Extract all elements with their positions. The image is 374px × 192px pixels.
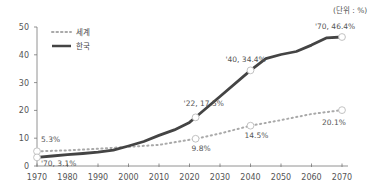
data-point-marker (247, 122, 254, 129)
x-tick-label: 1970 (27, 173, 47, 182)
y-tick-label: 40 (19, 51, 29, 60)
data-point-marker (339, 34, 346, 41)
data-annotation: '70, 3.1% (41, 159, 76, 168)
data-annotation: '70, 46.4% (315, 22, 355, 31)
y-tick-label: 0 (24, 162, 29, 171)
data-annotation: '22, 17.5% (184, 99, 224, 108)
x-tick-label: 1990 (88, 173, 108, 182)
data-point-marker (339, 107, 346, 114)
legend-world-label: 세계 (76, 27, 90, 37)
data-point-marker (34, 154, 41, 161)
x-tick-label: 2040 (240, 173, 260, 182)
data-annotation: '40, 34.4% (226, 55, 266, 64)
x-tick-label: 2020 (179, 173, 199, 182)
data-annotation: 5.3% (41, 135, 60, 144)
data-annotation: 14.5% (245, 131, 269, 140)
data-point-marker (247, 67, 254, 74)
y-tick-label: 20 (19, 106, 29, 115)
world-line (37, 110, 342, 151)
line-chart: (단위 : %) 0102030405019701980199020002010… (0, 0, 374, 192)
data-annotation: 20.1% (322, 118, 346, 127)
y-tick-label: 30 (19, 79, 29, 88)
legend: 세계 한국 (52, 27, 90, 51)
data-annotation: 9.8% (192, 144, 211, 153)
x-tick-label: 2000 (118, 173, 138, 182)
legend-korea-label: 한국 (76, 42, 90, 51)
x-tick-label: 2060 (301, 173, 321, 182)
x-tick-label: 2050 (271, 173, 291, 182)
y-tick-label: 10 (19, 134, 29, 143)
series-lines (37, 37, 342, 157)
data-point-marker (192, 114, 199, 121)
data-markers (34, 34, 346, 161)
unit-label: (단위 : %) (333, 5, 367, 15)
data-point-marker (192, 135, 199, 142)
x-tick-label: 2010 (149, 173, 169, 182)
y-tick-label: 50 (19, 23, 29, 32)
x-tick-label: 1980 (57, 173, 77, 182)
x-tick-label: 2030 (210, 173, 230, 182)
x-tick-label: 2070 (332, 173, 352, 182)
